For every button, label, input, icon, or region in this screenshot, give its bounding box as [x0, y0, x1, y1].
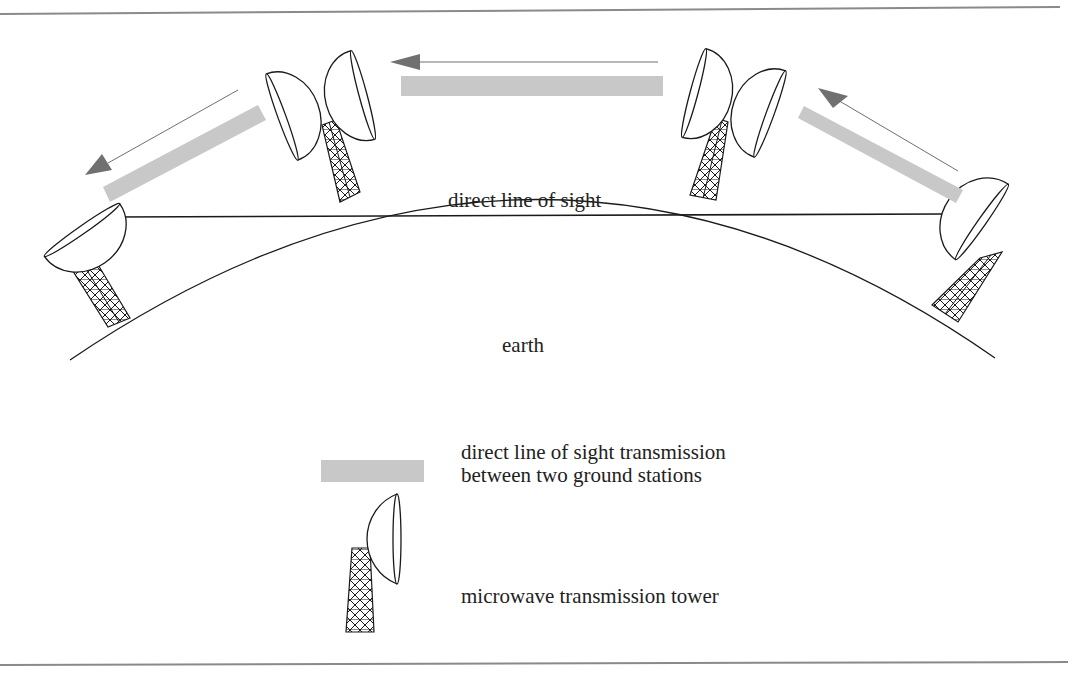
tower-3-relay-station [678, 48, 789, 200]
top-border-rule [0, 7, 1060, 14]
diagram-canvas: direct line of sight earth direct line o… [0, 0, 1073, 677]
legend-beam-swatch [321, 460, 424, 482]
beam-tower2-to-tower1 [85, 90, 266, 202]
line-of-sight-label: direct line of sight [448, 188, 602, 212]
legend-tower-icon [346, 494, 401, 632]
lattice-tower-icon [932, 252, 1002, 322]
beam-tower3-to-tower2 [390, 54, 663, 96]
bottom-border-rule [0, 662, 1068, 665]
beam-tower4-to-tower3 [798, 88, 963, 203]
legend-tower-label: microwave transmission tower [461, 584, 719, 608]
legend: direct line of sight transmission betwee… [321, 440, 726, 632]
tower-1-end-station [42, 200, 143, 327]
legend-beam-label-line1: direct line of sight transmission [461, 440, 726, 464]
dish-icon [263, 61, 334, 162]
earth-label: earth [502, 333, 544, 357]
legend-beam-label-line2: between two ground stations [461, 463, 702, 487]
tower-2-relay-station [263, 50, 379, 202]
